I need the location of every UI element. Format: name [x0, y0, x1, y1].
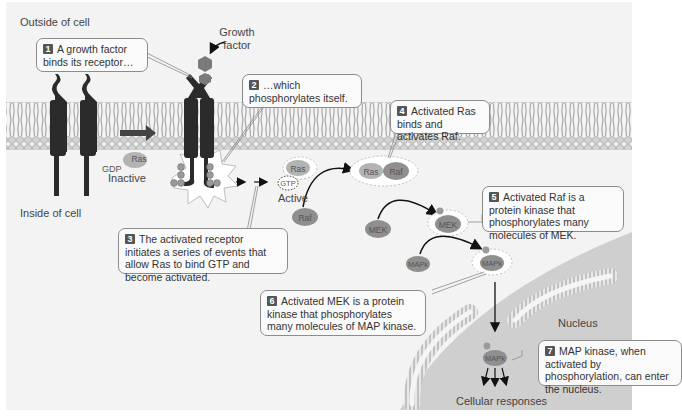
- growth-factor-hexagon: [198, 56, 212, 72]
- mek-p-label: MEK: [436, 220, 460, 230]
- mapk-p-label: MAPk: [480, 259, 504, 268]
- ras-inactive-label: Ras: [127, 154, 151, 164]
- step-1-callout: 1A growth factor binds its receptor…: [36, 38, 148, 72]
- ras-active-label: Ras: [286, 164, 310, 174]
- step-2-callout: 2…which phosphorylates itself.: [242, 74, 362, 108]
- inside-of-cell-label: Inside of cell: [20, 207, 81, 220]
- raf-label: Raf: [293, 213, 317, 223]
- step-badge: 2: [249, 80, 259, 90]
- step-badge: 1: [43, 44, 53, 54]
- step-badge: 3: [125, 234, 135, 244]
- mapk-nuclear-label: MAPk: [483, 354, 507, 363]
- step-3-callout: 3The activated receptor initiates a seri…: [118, 228, 288, 274]
- step-badge: 4: [397, 106, 407, 116]
- raf-complex-label: Raf: [384, 167, 408, 177]
- step-5-callout: 5Activated Raf is a protein kinase that …: [482, 186, 624, 232]
- diagram-panel: Outside of cell Inside of cell Growth fa…: [6, 2, 632, 410]
- transition-arrow: [120, 130, 146, 136]
- gtp-label: GTP: [278, 179, 298, 188]
- gdp-label: GDP: [102, 164, 122, 174]
- growth-factor-label: Growth factor: [217, 26, 257, 52]
- cellular-responses-label: Cellular responses: [456, 395, 547, 408]
- step-7-callout: 7MAP kinase, when activated by phosphory…: [538, 340, 682, 386]
- ras-complex-label: Ras: [359, 167, 383, 177]
- mapk-label: MAPk: [406, 260, 430, 269]
- mek-label: MEK: [366, 225, 390, 235]
- step-badge: 7: [545, 346, 555, 356]
- plasma-membrane: [6, 102, 632, 150]
- nucleus-label: Nucleus: [558, 317, 598, 330]
- step-6-callout: 6Activated MEK is a protein kinase that …: [260, 290, 426, 336]
- active-label: Active: [278, 192, 308, 205]
- step-4-callout: 4Activated Ras binds and activates Raf.: [390, 100, 490, 134]
- outside-of-cell-label: Outside of cell: [20, 16, 90, 29]
- step-badge: 6: [267, 296, 277, 306]
- step-badge: 5: [489, 192, 499, 202]
